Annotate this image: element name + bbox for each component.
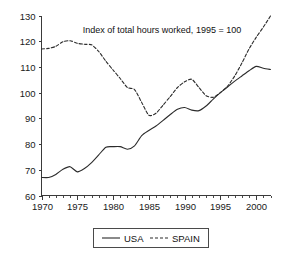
y-axis-ticks: 60708090100110120130 <box>20 11 42 202</box>
series-group <box>42 16 271 178</box>
x-tick-label: 2000 <box>246 201 267 212</box>
y-tick-label: 130 <box>20 11 36 22</box>
x-tick-label: 1975 <box>67 201 88 212</box>
x-tick-label: 1990 <box>175 201 196 212</box>
x-tick-label: 1995 <box>210 201 231 212</box>
y-tick-label: 90 <box>25 113 36 124</box>
x-axis-ticks: 1970197519801985199019952000 <box>32 196 267 212</box>
y-tick-label: 120 <box>20 36 36 47</box>
x-tick-label: 1970 <box>32 201 53 212</box>
chart-figure: 60708090100110120130 1970197519801985199… <box>0 0 290 253</box>
line-chart-svg: 60708090100110120130 1970197519801985199… <box>0 0 290 253</box>
y-tick-label: 110 <box>20 62 35 73</box>
legend: USA SPAIN <box>94 229 209 248</box>
chart-title: Index of total hours worked, 1995 = 100 <box>83 25 241 35</box>
x-tick-label: 1980 <box>103 201 124 212</box>
legend-label-usa: USA <box>124 233 144 244</box>
x-tick-label: 1985 <box>139 201 160 212</box>
legend-label-spain: SPAIN <box>172 233 200 244</box>
y-tick-label: 100 <box>20 88 36 99</box>
y-tick-label: 80 <box>25 139 36 150</box>
series-line-usa <box>42 66 271 177</box>
y-tick-label: 70 <box>25 165 36 176</box>
